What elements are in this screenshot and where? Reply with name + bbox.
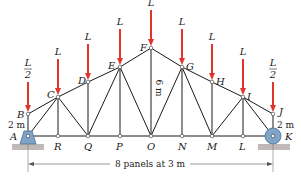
joint-N [180, 134, 184, 138]
member-FG [151, 48, 182, 67]
node-label-R: R [53, 141, 62, 152]
dim-arrow-left-icon [28, 162, 34, 166]
arrowhead-icon [270, 105, 276, 112]
node-label-I: I [246, 91, 252, 102]
load-label-C: L [54, 46, 62, 57]
span-dimension-label: 8 panels at 3 m [115, 159, 186, 169]
node-label-A: A [9, 131, 17, 142]
load-label-G: L [178, 16, 186, 27]
right-height-label: 2 m [277, 120, 295, 130]
member-GM [182, 67, 212, 136]
joint-C [56, 95, 60, 99]
ground-right [258, 144, 290, 150]
load-label-J: L [269, 57, 277, 68]
member-CQ [58, 97, 88, 136]
member-GO [151, 67, 182, 136]
joint-D [86, 80, 90, 84]
arrowhead-icon [117, 58, 123, 65]
node-label-L: L [238, 141, 246, 152]
arrowhead-icon [148, 39, 154, 46]
truss-members [28, 48, 273, 136]
node-label-M: M [206, 141, 218, 152]
joint-P [118, 134, 122, 138]
node-label-C: C [47, 89, 55, 100]
member-IM [212, 97, 243, 136]
load-label-H: L [208, 31, 216, 42]
joint-E [118, 65, 122, 69]
joint-G [180, 65, 184, 69]
node-label-E: E [107, 60, 116, 71]
member-AC [28, 97, 58, 136]
load-label-denominator: 2 [24, 69, 31, 80]
node-label-B: B [16, 109, 24, 120]
load-label-F: L [147, 0, 155, 8]
member-EQ [88, 67, 120, 136]
joint-O [149, 134, 153, 138]
load-label-I: L [239, 46, 247, 57]
node-label-F: F [139, 42, 148, 53]
load-label-denominator: 2 [269, 69, 276, 80]
load-label-D: L [84, 31, 92, 42]
load-label-E: L [116, 16, 124, 27]
node-label-J: J [277, 106, 284, 117]
joint-F [149, 46, 153, 50]
arrowhead-icon [55, 88, 61, 95]
arrowhead-icon [240, 88, 246, 95]
joint-A [26, 134, 30, 138]
node-label-Q: Q [84, 141, 92, 152]
arrowhead-icon [209, 73, 215, 80]
joint-B [26, 112, 30, 116]
member-EO [120, 67, 151, 136]
joint-M [210, 134, 214, 138]
joint-R [56, 134, 60, 138]
joint-L [241, 134, 245, 138]
joint-I [241, 95, 245, 99]
node-label-O: O [147, 141, 155, 152]
truss-diagram: ABCDEFGHIJKRQPONML L2LLLLLLLL2 8 panels … [0, 0, 301, 186]
node-label-N: N [177, 141, 188, 152]
joint-H [210, 80, 214, 84]
center-height-label: 6 m [154, 79, 164, 97]
node-label-P: P [115, 141, 123, 152]
joint-Q [86, 134, 90, 138]
arrowhead-icon [25, 105, 31, 112]
load-label-B: L [24, 57, 32, 68]
left-height-label: 2 m [8, 120, 26, 130]
node-label-K: K [284, 131, 293, 142]
arrowhead-icon [179, 58, 185, 65]
joint-K [271, 134, 275, 138]
node-label-G: G [186, 61, 194, 72]
node-label-H: H [215, 76, 225, 87]
node-label-D: D [77, 75, 86, 86]
joint-J [271, 112, 275, 116]
dim-arrow-right-icon [267, 162, 273, 166]
